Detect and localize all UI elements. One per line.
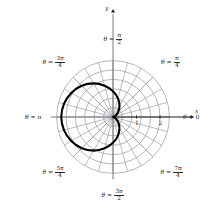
angle-label-theta-0: θ = 0	[183, 114, 199, 120]
theta-symbol: θ =	[161, 168, 172, 175]
radial-tick-1: 1	[135, 119, 139, 126]
fraction-denominator: 4	[174, 62, 180, 69]
fraction-denominator: 4	[55, 172, 64, 179]
theta-symbol: θ =	[161, 58, 172, 65]
angle-fraction: 5π4	[55, 166, 64, 178]
theta-symbol: θ =	[102, 191, 113, 198]
angle-fraction: 7π4	[173, 166, 182, 178]
fraction-numerator: π	[174, 56, 180, 62]
fraction-denominator: 4	[173, 172, 182, 179]
theta-symbol: θ =	[43, 168, 54, 175]
fraction-numerator: 3π	[114, 189, 123, 195]
angle-fraction: 3π2	[114, 189, 123, 201]
plot-background	[0, 0, 200, 214]
angle-fraction: 3π4	[55, 56, 64, 68]
theta-symbol: θ =	[183, 113, 194, 120]
radial-tick-2: 2	[159, 119, 163, 126]
angle-label-theta-3pi-2: θ = 3π2	[102, 189, 125, 201]
angle-label-theta-pi: θ = π	[25, 114, 41, 120]
angle-label-theta-3pi-4: θ = 3π4	[43, 56, 66, 68]
polar-plot-figure	[0, 0, 200, 214]
angle-fraction: π2	[116, 33, 122, 45]
angle-label-theta-pi-4: θ = π4	[161, 56, 180, 68]
fraction-numerator: 7π	[173, 166, 182, 172]
angle-value: 0	[195, 113, 199, 120]
angle-label-theta-5pi-4: θ = 5π4	[43, 166, 66, 178]
angle-fraction: π4	[174, 56, 180, 68]
angle-label-theta-7pi-4: θ = 7π4	[161, 166, 184, 178]
fraction-numerator: 3π	[55, 56, 64, 62]
theta-symbol: θ =	[43, 58, 54, 65]
angle-label-theta-pi-2: θ = π2	[104, 33, 123, 45]
angle-value: π	[37, 113, 41, 120]
fraction-denominator: 4	[55, 62, 64, 69]
y-axis-label: y	[105, 4, 108, 11]
theta-symbol: θ =	[25, 113, 36, 120]
fraction-denominator: 2	[116, 39, 122, 46]
fraction-denominator: 2	[114, 195, 123, 202]
fraction-numerator: 5π	[55, 166, 64, 172]
theta-symbol: θ =	[104, 35, 115, 42]
